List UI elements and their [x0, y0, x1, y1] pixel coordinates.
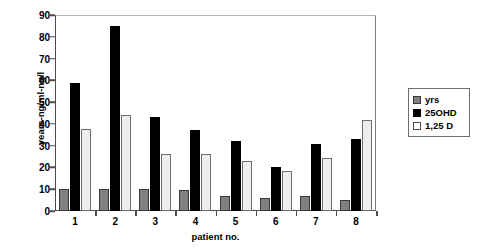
y-axis-tick-label: 40	[10, 118, 50, 129]
bar	[340, 200, 350, 211]
bar	[59, 189, 69, 211]
legend-item-label: 25OHD	[425, 107, 457, 118]
bar	[300, 196, 310, 211]
bar-chart: years-ng/ml-ng/l 0102030405060708090 123…	[0, 0, 477, 250]
y-axis-tick-label: 80	[10, 31, 50, 42]
bar	[190, 130, 200, 211]
bar	[81, 129, 91, 211]
y-axis-tick-label: 10	[10, 184, 50, 195]
bar	[139, 189, 149, 211]
x-axis-title: patient no.	[55, 231, 376, 242]
bar	[121, 115, 131, 211]
bar	[322, 158, 332, 211]
x-axis-tick-mark	[256, 211, 258, 216]
y-axis-tick-label: 30	[10, 140, 50, 151]
legend-item-label: 1,25 D	[425, 120, 453, 131]
bar	[311, 144, 321, 212]
bar-group	[296, 15, 336, 211]
chart-legend: yrs25OHD1,25 D	[408, 88, 470, 137]
y-axis-tick-label: 20	[10, 162, 50, 173]
bar	[362, 120, 372, 211]
legend-swatch-icon	[413, 109, 421, 117]
bar	[201, 154, 211, 211]
bar-group	[55, 15, 95, 211]
bar	[282, 171, 292, 211]
bar-group	[175, 15, 215, 211]
bar	[271, 167, 281, 211]
bars-layer	[55, 15, 376, 211]
bar	[260, 198, 270, 211]
x-axis-tick-label: 7	[301, 216, 331, 227]
bar	[231, 141, 241, 211]
y-axis-tick-label: 90	[10, 10, 50, 21]
legend-swatch-icon	[413, 96, 421, 104]
legend-item-label: yrs	[425, 94, 439, 105]
x-axis-tick-mark	[95, 211, 97, 216]
bar	[161, 154, 171, 211]
x-axis-tick-mark	[135, 211, 137, 216]
bar	[179, 190, 189, 211]
bar	[220, 196, 230, 211]
x-axis-tick-label: 3	[140, 216, 170, 227]
bar	[110, 26, 120, 211]
x-axis-tick-label: 2	[100, 216, 130, 227]
x-axis-tick-label: 5	[221, 216, 251, 227]
legend-item: 1,25 D	[413, 119, 465, 132]
x-axis-tick-label: 4	[180, 216, 210, 227]
bar-group	[216, 15, 256, 211]
x-axis-tick-mark	[376, 211, 378, 216]
bar	[351, 139, 361, 211]
legend-item: 25OHD	[413, 106, 465, 119]
x-axis-tick-mark	[175, 211, 177, 216]
x-axis-tick-label: 8	[341, 216, 371, 227]
y-axis-tick-label: 0	[10, 206, 50, 217]
x-axis-tick-label: 1	[60, 216, 90, 227]
x-axis-tick-label: 6	[261, 216, 291, 227]
bar-group	[336, 15, 376, 211]
y-axis-tick-label: 70	[10, 53, 50, 64]
bar-group	[135, 15, 175, 211]
x-axis-tick-mark	[296, 211, 298, 216]
bar	[99, 189, 109, 211]
x-axis-tick-mark	[216, 211, 218, 216]
legend-swatch-icon	[413, 122, 421, 130]
bar	[70, 83, 80, 211]
bar-group	[95, 15, 135, 211]
legend-item: yrs	[413, 93, 465, 106]
bar-group	[256, 15, 296, 211]
bar	[150, 117, 160, 211]
y-axis-tick-label: 60	[10, 75, 50, 86]
y-axis-tick-label: 50	[10, 97, 50, 108]
bar	[242, 161, 252, 211]
x-axis-tick-mark	[336, 211, 338, 216]
